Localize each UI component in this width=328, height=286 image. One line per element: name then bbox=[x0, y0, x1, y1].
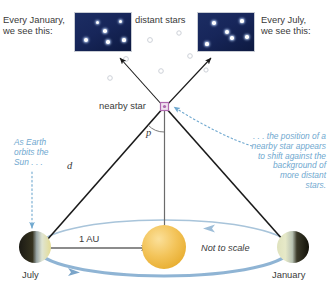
sightline-to-july-panel bbox=[166, 58, 211, 106]
label-nearby-star: nearby star bbox=[99, 100, 146, 111]
panel-star bbox=[103, 29, 107, 33]
label-earth-january: January bbox=[272, 269, 305, 280]
panel-star bbox=[122, 38, 125, 41]
label-distant-stars: distant stars bbox=[135, 14, 186, 25]
label-not-to-scale: Not to scale bbox=[201, 243, 250, 253]
caption-july: Every July, we see this: bbox=[261, 14, 327, 37]
orbit-direction-arrow-back bbox=[203, 225, 215, 233]
parallax-diagram: Every January, we see this: Every July, … bbox=[0, 0, 328, 286]
caption-january: Every January, we see this: bbox=[3, 14, 73, 37]
panel-star bbox=[212, 21, 215, 24]
panel-star bbox=[225, 30, 229, 34]
panel-star bbox=[84, 38, 89, 43]
panel-star bbox=[96, 21, 99, 24]
label-au: 1 AU bbox=[79, 233, 99, 244]
panel-star bbox=[230, 36, 233, 39]
panel-star bbox=[119, 20, 122, 23]
panel-star bbox=[205, 42, 208, 45]
star-panel-july bbox=[197, 12, 255, 52]
note-left-text: As Earth orbits the Sun . . . bbox=[14, 138, 74, 167]
earth-july bbox=[19, 231, 51, 263]
note-right-text: . . . the position of a nearby star appe… bbox=[236, 132, 326, 191]
label-angle-p: p bbox=[146, 127, 151, 138]
sightline-to-january-panel bbox=[120, 58, 163, 106]
sun bbox=[142, 225, 186, 269]
panel-star bbox=[240, 19, 243, 22]
earth-january bbox=[277, 231, 309, 263]
nearby-star-glyph bbox=[161, 103, 169, 111]
panel-star bbox=[106, 40, 109, 43]
star-panel-january bbox=[74, 12, 132, 52]
panel-star bbox=[245, 35, 248, 38]
label-earth-july: July bbox=[22, 269, 39, 280]
